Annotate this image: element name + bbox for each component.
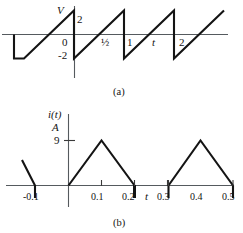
x-tick-label-neg0.1-b: -0.1: [23, 191, 39, 202]
triangular-current-chart: i(t) A t 9 -0.1 0.1 0.2 0.3 0.4 0.5 (b): [0, 100, 243, 233]
current-waveform-pulse-2: [169, 141, 234, 199]
x-tick-label-1-a: 1: [127, 36, 133, 48]
sawtooth-voltage-chart: 2 0 -2 ½ 1 2 V t (a): [0, 0, 243, 100]
chart-panel-a: 2 0 -2 ½ 1 2 V t (a): [0, 0, 243, 100]
y-tick-label-2-a: 2: [77, 13, 83, 25]
x-axis-label-a: t: [152, 36, 156, 48]
x-tick-label-0.5-b: 0.5: [222, 191, 235, 202]
x-tick-label-half-a: ½: [101, 36, 109, 48]
x-tick-label-2-a: 2: [179, 36, 185, 48]
current-waveform-pulse-1: [69, 141, 135, 199]
y-axis-label-b: i(t): [48, 108, 62, 121]
chart-panel-b: i(t) A t 9 -0.1 0.1 0.2 0.3 0.4 0.5 (b): [0, 100, 243, 233]
panel-caption-b: (b): [113, 217, 126, 229]
x-tick-label-0.3-b: 0.3: [157, 191, 170, 202]
panel-caption-a: (a): [113, 86, 125, 98]
x-tick-label-0.4-b: 0.4: [190, 191, 203, 202]
x-axis-label-b: t: [145, 190, 149, 202]
x-tick-label-0.2-b: 0.2: [122, 191, 135, 202]
y-tick-label-9-b: 9: [54, 134, 60, 146]
y-tick-label-neg2-a: -2: [58, 49, 67, 61]
y-axis-units-label-b: A: [51, 121, 59, 133]
y-axis-label-a: V: [57, 4, 65, 16]
origin-label-a: 0: [62, 36, 68, 48]
x-tick-label-0.1-b: 0.1: [91, 191, 104, 202]
figure-root: 2 0 -2 ½ 1 2 V t (a): [0, 0, 243, 233]
